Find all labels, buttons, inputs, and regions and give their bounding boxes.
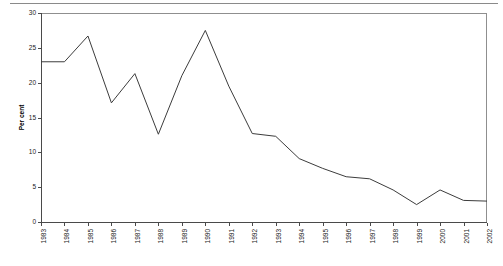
y-tick-label: 25: [29, 44, 37, 51]
x-tick-label: 1989: [181, 229, 188, 244]
y-tick-label: 0: [32, 218, 36, 225]
x-tick-label: 1994: [298, 229, 305, 244]
x-tick-label: 1992: [251, 229, 258, 244]
x-tick-label: 1983: [40, 229, 47, 244]
x-tick-label: 1995: [322, 229, 329, 244]
x-axis-ticks: [42, 223, 488, 227]
x-tick-label: 1997: [369, 229, 376, 244]
x-tick-label: 1986: [110, 229, 117, 244]
y-tick-label: 20: [29, 79, 37, 86]
x-axis-tick-labels: 1983198419851986198719881989199019911992…: [40, 229, 493, 244]
x-tick-label: 1996: [345, 229, 352, 244]
y-tick-label: 15: [29, 114, 37, 121]
x-tick-label: 1993: [275, 229, 282, 244]
plot-frame: [42, 14, 487, 223]
x-tick-label: 2000: [439, 229, 446, 244]
data-series-line: [41, 30, 487, 204]
x-tick-label: 1984: [63, 229, 70, 244]
x-tick-label: 1987: [134, 229, 141, 244]
chart-container: 051015202530 198319841985198619871988198…: [0, 0, 503, 266]
x-tick-label: 1999: [416, 229, 423, 244]
x-tick-label: 1990: [204, 229, 211, 244]
y-tick-label: 5: [32, 183, 36, 190]
y-tick-label: 30: [29, 9, 37, 16]
x-tick-label: 1985: [87, 229, 94, 244]
x-tick-label: 1988: [157, 229, 164, 244]
x-tick-label: 2002: [486, 229, 493, 244]
line-chart: 051015202530 198319841985198619871988198…: [0, 0, 503, 266]
x-tick-label: 1998: [392, 229, 399, 244]
y-axis-ticks: [38, 14, 42, 223]
y-axis-tick-labels: 051015202530: [29, 9, 37, 225]
x-tick-label: 1991: [228, 229, 235, 244]
y-axis-title: Per cent: [18, 104, 25, 130]
y-tick-label: 10: [29, 148, 37, 155]
x-tick-label: 2001: [463, 229, 470, 244]
